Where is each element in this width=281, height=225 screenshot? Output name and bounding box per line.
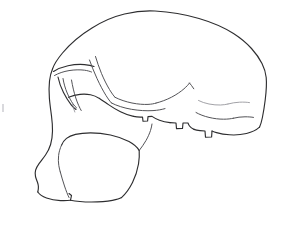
skull-lateral-drawing [0, 0, 281, 225]
figure-root [0, 0, 281, 225]
paper-speck-artifact [2, 104, 4, 112]
paper-background [0, 0, 281, 225]
